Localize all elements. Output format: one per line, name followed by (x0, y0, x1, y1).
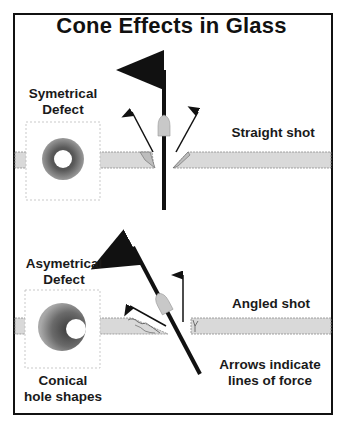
symmetrical-defect-illustration (26, 122, 100, 200)
glass-pane-right-bottom (191, 318, 331, 334)
asymmetrical-defect-illustration (25, 290, 100, 368)
force-arrow-right-straight (176, 112, 198, 152)
label-asymmetrical-defect: Asymetrical Defect (16, 256, 112, 288)
label-arrows-line1: Arrows indicate (208, 357, 332, 373)
label-arrows-line2: lines of force (208, 373, 332, 389)
bullet-icon-straight (158, 115, 170, 136)
label-asymmetrical-line1: Asymetrical (16, 256, 112, 272)
label-conical-line2: hole shapes (16, 389, 110, 405)
glass-pane-right-top (173, 152, 331, 168)
label-symmetrical-line1: Symetrical (20, 86, 106, 102)
label-asymmetrical-line2: Defect (16, 272, 112, 288)
label-angled-shot: Angled shot (216, 296, 326, 312)
label-arrows-note: Arrows indicate lines of force (208, 357, 332, 389)
label-symmetrical-line2: Defect (20, 102, 106, 118)
bullet-icon-angled (153, 291, 173, 315)
label-conical-hole-shapes: Conical hole shapes (16, 373, 110, 405)
force-arrow-left-straight (132, 112, 153, 152)
label-symmetrical-defect: Symetrical Defect (20, 86, 106, 118)
label-conical-line1: Conical (16, 373, 110, 389)
label-straight-shot: Straight shot (218, 125, 328, 141)
